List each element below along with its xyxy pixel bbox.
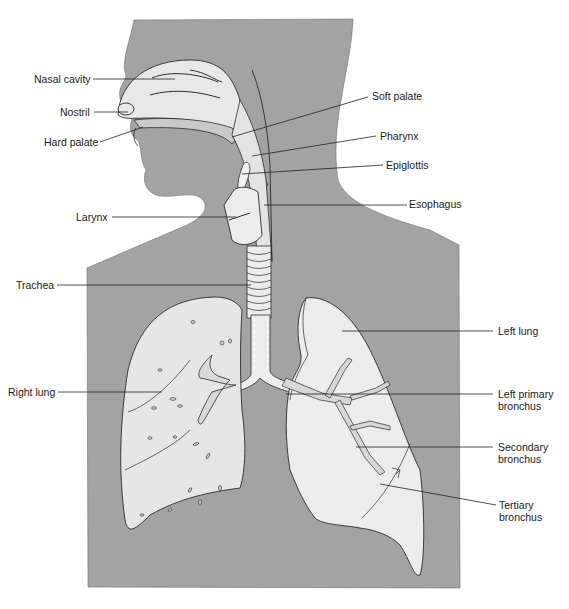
label-tertiary-bronchus: Tertiary bronchus bbox=[499, 499, 559, 523]
label-left-primary-bronchus: Left primary bronchus bbox=[498, 388, 568, 412]
label-esophagus: Esophagus bbox=[409, 198, 462, 210]
nostril-shape bbox=[118, 103, 134, 115]
label-hard-palate: Hard palate bbox=[44, 136, 98, 148]
label-secondary-bronchus: Secondary bronchus bbox=[498, 441, 564, 465]
label-epiglottis: Epiglottis bbox=[386, 159, 429, 171]
label-trachea: Trachea bbox=[16, 279, 54, 291]
label-larynx: Larynx bbox=[76, 211, 108, 223]
respiratory-diagram bbox=[0, 0, 569, 609]
label-soft-palate: Soft palate bbox=[372, 90, 422, 102]
label-nasal-cavity: Nasal cavity bbox=[34, 73, 91, 85]
label-nostril: Nostril bbox=[60, 106, 90, 118]
label-pharynx: Pharynx bbox=[380, 130, 419, 142]
label-left-lung: Left lung bbox=[498, 325, 538, 337]
label-right-lung: Right lung bbox=[8, 386, 55, 398]
